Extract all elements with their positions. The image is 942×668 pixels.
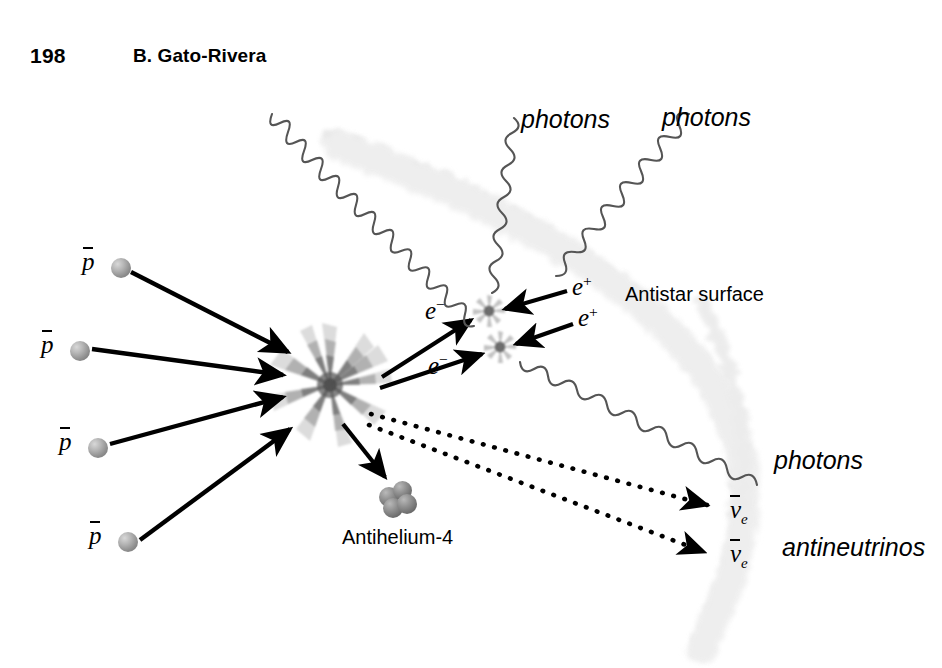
photon-wave-middle (489, 118, 518, 293)
electron-label-2: e− (428, 351, 448, 380)
antiproton-arrow-1 (131, 272, 288, 352)
antiproton-sphere-1 (111, 258, 131, 278)
positron-symbol: e (578, 304, 589, 331)
antiproton-arrow-2 (92, 349, 283, 375)
electron-symbol: e (428, 352, 439, 379)
electron-arrow-1 (382, 320, 471, 377)
antiproton-symbol: p (82, 248, 95, 276)
positron-arrows (505, 291, 573, 344)
antiproton-label-4: p (89, 522, 102, 550)
antineutrino-symbol: ν (730, 496, 741, 524)
photon-wave-upper-right (556, 113, 689, 276)
positron-charge: + (583, 272, 592, 289)
pair-burst-upper (473, 295, 505, 327)
antineutrino-symbol: ν (730, 540, 741, 568)
antiproton-label-2: p (41, 331, 54, 359)
diagram-layer (0, 0, 942, 668)
positron-arrow-2 (516, 324, 573, 344)
electron-charge: − (439, 351, 448, 368)
photon-wave-left (270, 114, 474, 327)
antineutrinos-label: antineutrinos (782, 533, 925, 562)
figure-canvas: 198 B. Gato-Rivera (0, 0, 942, 668)
photons-label-top-right: photons (662, 103, 751, 132)
antiproton-arrows (92, 272, 290, 540)
antiproton-symbol: p (89, 522, 102, 550)
positron-symbol: e (572, 273, 583, 300)
antineutrino-subscript: e (741, 511, 748, 527)
positron-arrow-1 (505, 291, 567, 309)
antiproton-symbol: p (41, 331, 54, 359)
electron-label-1: e− (425, 296, 445, 325)
electron-symbol: e (425, 297, 436, 324)
antihelium-label: Antihelium-4 (342, 526, 453, 549)
positron-label-2: e+ (578, 303, 598, 332)
antiproton-arrow-3 (110, 397, 283, 444)
photons-label-top-left: photons (521, 105, 610, 134)
photon-wave-lower-right (520, 362, 757, 485)
antiproton-label-1: p (82, 248, 95, 276)
antistar-surface-label: Antistar surface (625, 283, 764, 306)
antiproton-label-3: p (59, 428, 72, 456)
antiproton-sphere-4 (118, 532, 138, 552)
antineutrino-label-2: νe (730, 540, 748, 572)
antihelium-nucleon (397, 494, 417, 514)
positron-charge: + (589, 303, 598, 320)
antiproton-arrow-4 (140, 429, 290, 540)
antihelium-cluster (378, 481, 422, 521)
antineutrino-subscript: e (741, 555, 748, 571)
antiproton-symbol: p (59, 428, 72, 456)
photons-label-right: photons (774, 446, 863, 475)
electron-charge: − (436, 296, 445, 313)
antiproton-sphere-3 (88, 438, 108, 458)
antiproton-sphere-2 (70, 341, 90, 361)
antihelium-arrow (343, 424, 385, 477)
positron-label-1: e+ (572, 272, 592, 301)
antineutrino-label-1: νe (730, 496, 748, 528)
pair-burst-lower (484, 331, 516, 363)
